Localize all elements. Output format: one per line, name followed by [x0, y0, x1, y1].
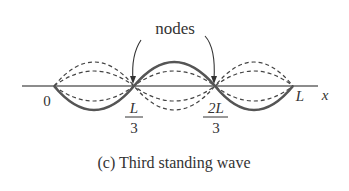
tick-two-thirds-denominator: 3: [212, 120, 220, 136]
arrow-left-icon: [133, 40, 141, 80]
tick-one-third-denominator: 3: [130, 120, 138, 136]
tick-end: L: [295, 88, 304, 104]
nodes-label: nodes: [155, 19, 195, 38]
caption: (c) Third standing wave: [98, 154, 251, 172]
standing-wave-diagram: nodes 0 L 3 2L 3 L x (c) Third standing …: [0, 0, 349, 191]
tick-two-thirds-numerator: 2L: [208, 100, 224, 116]
arrow-right-icon: [205, 36, 214, 80]
tick-one-third-numerator: L: [129, 100, 138, 116]
tick-origin: 0: [43, 93, 51, 109]
x-axis-label: x: [321, 87, 329, 103]
